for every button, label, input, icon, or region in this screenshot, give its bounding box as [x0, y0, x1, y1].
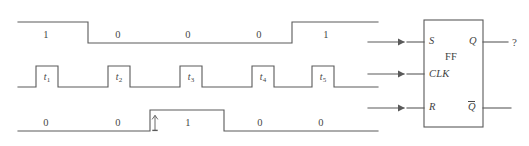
clk-pulse-label-3: t3 [188, 72, 195, 82]
q-bar-glyph: Q [468, 102, 476, 113]
clk-pulse-sub-2: 2 [119, 76, 123, 84]
ff-pin-label-q: Q [469, 36, 477, 47]
ff-pin-label-r: R [429, 102, 436, 113]
clk-pulse-sub-3: 3 [191, 76, 195, 84]
r-bit-label-4: 0 [257, 118, 262, 129]
r-bit-label-3: 1 [185, 118, 190, 129]
s-bit-label-4: 0 [256, 30, 261, 41]
unknown-output-question-mark: ? [512, 37, 517, 48]
ff-pin-label-q-bar: Q [468, 102, 476, 113]
s-bit-label-3: 0 [185, 30, 190, 41]
clk-pulse-sub-1: 1 [47, 76, 51, 84]
clk-pulse-label-2: t2 [116, 72, 123, 82]
overbar-line [468, 101, 475, 102]
s-bit-label-2: 0 [115, 30, 120, 41]
clk-pulse-sub-4: 4 [263, 76, 267, 84]
clk-pulse-label-4: t4 [260, 72, 267, 82]
r-bit-label-2: 0 [115, 118, 120, 129]
timing-diagram-figure: 1 0 0 0 1 t1 t2 t3 t4 t5 0 0 1 0 0 S CLK… [0, 0, 529, 146]
s-bit-label-1: 1 [43, 30, 48, 41]
clk-pulse-label-1: t1 [44, 72, 51, 82]
r-bit-label-1: 0 [43, 118, 48, 129]
clk-pulse-label-5: t5 [320, 72, 327, 82]
q-bar-letter: Q [468, 101, 476, 112]
ff-body-label: FF [445, 52, 457, 63]
clk-pulse-sub-5: 5 [323, 76, 327, 84]
s-bit-label-5: 1 [323, 30, 328, 41]
ff-pin-label-s: S [429, 36, 434, 47]
r-bit-label-5: 0 [318, 118, 323, 129]
diagram-text-layer: 1 0 0 0 1 t1 t2 t3 t4 t5 0 0 1 0 0 S CLK… [0, 0, 529, 146]
ff-pin-label-clk: CLK [429, 69, 449, 80]
